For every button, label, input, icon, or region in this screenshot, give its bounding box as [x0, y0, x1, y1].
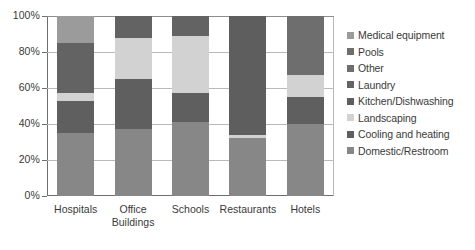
legend-item[interactable]: Pools	[347, 44, 472, 61]
x-axis-label: Office Buildings	[104, 203, 161, 229]
bar-segment[interactable]	[115, 16, 152, 38]
legend-label: Kitchen/Dishwashing	[358, 95, 454, 107]
x-axis-label: Restaurants	[219, 203, 276, 216]
x-axis-label: Schools	[162, 203, 219, 216]
bar-segment[interactable]	[287, 97, 324, 124]
bar-segment[interactable]	[229, 138, 266, 196]
legend-item[interactable]: Medical equipment	[347, 27, 472, 44]
legend-item[interactable]: Kitchen/Dishwashing	[347, 93, 472, 110]
bar-segment[interactable]	[57, 43, 94, 93]
bar-group[interactable]	[172, 16, 209, 196]
legend-swatch-icon	[347, 98, 354, 105]
legend-item[interactable]: Landscaping	[347, 110, 472, 127]
legend-swatch-icon	[347, 81, 354, 88]
legend-swatch-icon	[347, 147, 354, 154]
y-axis-tick-label: 80%	[0, 45, 40, 57]
bar-group[interactable]	[57, 16, 94, 196]
y-axis-tick-label: 40%	[0, 117, 40, 129]
y-axis-tick-label: 0%	[0, 189, 40, 201]
legend-swatch-icon	[347, 131, 354, 138]
bar-segment[interactable]	[57, 101, 94, 133]
legend-label: Other	[358, 62, 384, 74]
bar-segment[interactable]	[287, 124, 324, 196]
legend-label: Medical equipment	[358, 29, 444, 41]
legend-item[interactable]: Domestic/Restroom	[347, 143, 472, 160]
legend-item[interactable]: Laundry	[347, 77, 472, 94]
bar-segment[interactable]	[57, 133, 94, 196]
legend-item[interactable]: Other	[347, 60, 472, 77]
y-axis-tick-label: 100%	[0, 9, 40, 21]
legend-label: Laundry	[358, 79, 395, 91]
y-axis-tick-label: 60%	[0, 81, 40, 93]
legend-swatch-icon	[347, 65, 354, 72]
bar-group[interactable]	[287, 16, 324, 196]
legend-item[interactable]: Cooling and heating	[347, 126, 472, 143]
legend-swatch-icon	[347, 48, 354, 55]
legend-swatch-icon	[347, 32, 354, 39]
bar-group[interactable]	[115, 16, 152, 196]
legend-label: Landscaping	[358, 112, 416, 124]
bar-segment[interactable]	[287, 16, 324, 75]
legend-label: Pools	[358, 46, 384, 58]
bar-segment[interactable]	[229, 135, 266, 139]
x-axis-label: Hospitals	[47, 203, 104, 216]
legend-label: Domestic/Restroom	[358, 145, 449, 157]
bar-series-container	[47, 16, 334, 196]
bar-segment[interactable]	[115, 79, 152, 129]
y-axis-tick-mark	[42, 196, 47, 197]
bar-segment[interactable]	[287, 75, 324, 97]
bar-segment[interactable]	[172, 36, 209, 94]
bar-group[interactable]	[229, 16, 266, 196]
bar-segment[interactable]	[172, 16, 209, 36]
bar-segment[interactable]	[115, 129, 152, 196]
chart-page: 0%20%40%60%80%100% HospitalsOffice Build…	[0, 0, 475, 250]
bar-segment[interactable]	[172, 122, 209, 196]
bar-segment[interactable]	[57, 16, 94, 43]
bar-segment[interactable]	[229, 16, 266, 135]
bar-segment[interactable]	[172, 93, 209, 122]
bar-segment[interactable]	[57, 93, 94, 100]
legend-swatch-icon	[347, 114, 354, 121]
x-axis-label: Hotels	[277, 203, 334, 216]
bar-segment[interactable]	[115, 38, 152, 79]
chart-legend: Medical equipmentPoolsOtherLaundryKitche…	[347, 27, 472, 159]
legend-label: Cooling and heating	[358, 128, 450, 140]
y-axis-tick-label: 20%	[0, 153, 40, 165]
